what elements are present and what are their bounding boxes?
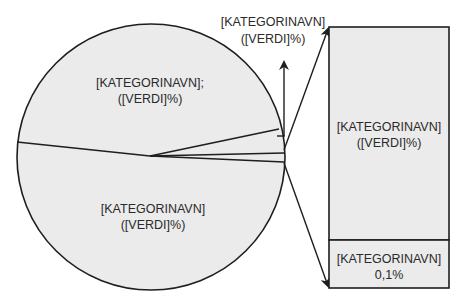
bar-lower-label-value: 0,1%: [375, 268, 404, 282]
bar-upper-label-name: [KATEGORINAVN]: [337, 120, 441, 134]
bar-upper-label-value: ([VERDI]%): [357, 136, 422, 150]
bar-of-pie-chart: [KATEGORINAVN]; ([VERDI]%) [KATEGORINAVN…: [0, 0, 468, 304]
callout-top-label-name: [KATEGORINAVN]: [221, 15, 325, 29]
bar-lower-label-name: [KATEGORINAVN]: [337, 252, 441, 266]
pie-lower-label-value: ([VERDI]%): [121, 218, 186, 232]
pie-upper-label-value: ([VERDI]%): [118, 92, 183, 106]
pie: [17, 24, 285, 290]
pie-circle: [17, 24, 285, 290]
pie-lower-label-name: [KATEGORINAVN]: [101, 202, 205, 216]
pie-upper-label-name: [KATEGORINAVN];: [96, 76, 204, 90]
connector-arrow-bottom: [284, 163, 328, 286]
connector-arrow-top: [284, 29, 328, 150]
callout-top-label-value: ([VERDI]%): [241, 32, 306, 46]
stacked-bar: [329, 27, 449, 288]
